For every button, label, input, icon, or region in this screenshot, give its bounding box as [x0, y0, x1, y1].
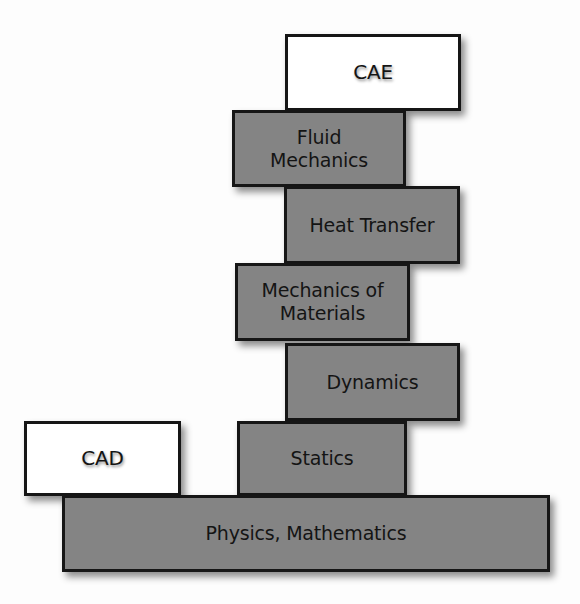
block-label: CAD — [81, 447, 123, 470]
block-physics-mathematics: Physics, Mathematics — [62, 495, 550, 572]
diagram-canvas: CAE Fluid Mechanics Heat Transfer Mechan… — [0, 0, 580, 604]
block-cae: CAE — [285, 34, 461, 111]
block-mechanics-of-materials: Mechanics of Materials — [235, 263, 410, 341]
block-label: Dynamics — [326, 371, 418, 394]
block-label: Statics — [291, 447, 354, 470]
block-label: Fluid Mechanics — [270, 126, 368, 172]
block-statics: Statics — [237, 421, 407, 496]
block-label: CAE — [353, 61, 393, 84]
block-cad: CAD — [24, 421, 181, 496]
block-heat-transfer: Heat Transfer — [284, 186, 460, 264]
block-label: Physics, Mathematics — [206, 522, 407, 545]
block-fluid-mechanics: Fluid Mechanics — [232, 110, 406, 187]
block-label: Mechanics of Materials — [262, 279, 384, 325]
block-label: Heat Transfer — [310, 214, 435, 237]
block-dynamics: Dynamics — [285, 343, 460, 421]
